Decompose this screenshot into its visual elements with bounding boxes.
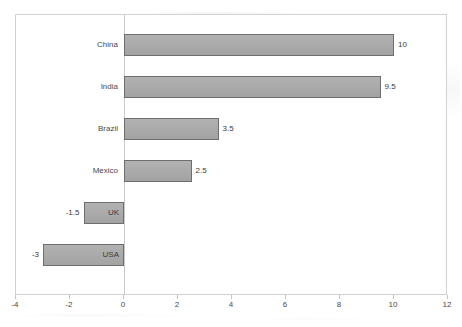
category-label-uk: UK	[108, 209, 119, 217]
x-axis: -4-2024681012	[15, 295, 447, 319]
plot-area: China10India9.5Brazil3.5Mexico2.5UK-1.5U…	[16, 15, 446, 294]
x-tick	[69, 295, 70, 299]
x-tick-label: -2	[65, 301, 72, 309]
x-tick-label: -4	[11, 301, 18, 309]
plot-frame: China10India9.5Brazil3.5Mexico2.5UK-1.5U…	[15, 14, 447, 295]
x-tick-label: 12	[443, 301, 452, 309]
bar-china[interactable]	[124, 34, 394, 56]
x-tick-label: 8	[337, 301, 341, 309]
bar-india[interactable]	[124, 76, 381, 98]
value-label-mexico: 2.5	[196, 167, 207, 175]
category-label-usa: USA	[103, 251, 119, 259]
bar-chart: China10India9.5Brazil3.5Mexico2.5UK-1.5U…	[0, 0, 462, 327]
x-tick	[15, 295, 16, 299]
x-tick-label: 2	[175, 301, 179, 309]
category-label-india: India	[101, 83, 118, 91]
x-tick	[123, 295, 124, 299]
bar-row: Brazil3.5	[16, 118, 446, 140]
category-label-mexico: Mexico	[93, 167, 118, 175]
category-label-brazil: Brazil	[98, 125, 118, 133]
x-tick	[393, 295, 394, 299]
x-tick	[447, 295, 448, 299]
x-tick	[177, 295, 178, 299]
value-label-china: 10	[398, 41, 407, 49]
bar-row: India9.5	[16, 76, 446, 98]
x-tick-label: 4	[229, 301, 233, 309]
x-tick-label: 0	[121, 301, 125, 309]
x-tick	[231, 295, 232, 299]
bar-brazil[interactable]	[124, 118, 219, 140]
x-tick-label: 10	[389, 301, 398, 309]
value-label-uk: -1.5	[66, 209, 80, 217]
category-label-china: China	[97, 41, 118, 49]
value-label-usa: -3	[32, 251, 39, 259]
x-tick-label: 6	[283, 301, 287, 309]
bar-row: UK-1.5	[16, 202, 446, 224]
bar-row: Mexico2.5	[16, 160, 446, 182]
bar-row: USA-3	[16, 244, 446, 266]
x-tick	[285, 295, 286, 299]
bar-mexico[interactable]	[124, 160, 192, 182]
bar-row: China10	[16, 34, 446, 56]
value-label-brazil: 3.5	[223, 125, 234, 133]
x-tick	[339, 295, 340, 299]
value-label-india: 9.5	[385, 83, 396, 91]
